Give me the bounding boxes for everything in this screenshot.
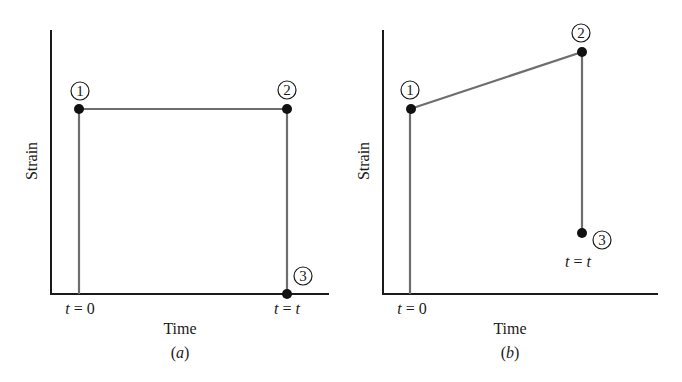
panel-caption: (a) — [171, 344, 190, 362]
point-1-label: 1 — [401, 81, 419, 99]
point-1-marker — [406, 104, 416, 114]
svg-text:1: 1 — [406, 82, 414, 98]
tick-end-label: t = t — [565, 253, 591, 270]
point-2-label: 2 — [572, 24, 590, 42]
panel-a: 1 2 3 t = 0 t = t Time Strain (a) — [23, 30, 329, 362]
point-2-marker — [577, 47, 587, 57]
x-axis-title: Time — [493, 320, 526, 337]
tick-end-label: t = t — [274, 300, 300, 317]
tick-start-label: t = 0 — [397, 300, 426, 317]
point-3-label: 3 — [593, 231, 611, 249]
point-3-label: 3 — [294, 267, 312, 285]
panel-b: 1 2 3 t = 0 t = t Time Strain (b) — [355, 24, 658, 362]
y-axis-title: Strain — [355, 142, 372, 180]
tick-start-label: t = 0 — [65, 300, 94, 317]
point-2-label: 2 — [278, 81, 296, 99]
point-3-marker — [282, 289, 292, 299]
point-2-marker — [282, 104, 292, 114]
point-1-marker — [74, 104, 84, 114]
x-axis-title: Time — [163, 320, 196, 337]
strain-time-diagram: 1 2 3 t = 0 t = t Time Strain (a) — [0, 0, 682, 382]
point-3-marker — [577, 228, 587, 238]
point-1-label: 1 — [71, 82, 89, 100]
strain-path — [79, 109, 287, 294]
svg-text:3: 3 — [299, 268, 307, 284]
strain-path — [410, 52, 582, 294]
y-axis-title: Strain — [23, 142, 40, 180]
svg-text:1: 1 — [76, 83, 84, 99]
svg-text:3: 3 — [598, 232, 606, 248]
panel-caption: (b) — [501, 344, 520, 362]
svg-text:2: 2 — [283, 82, 291, 98]
svg-text:2: 2 — [577, 25, 585, 41]
